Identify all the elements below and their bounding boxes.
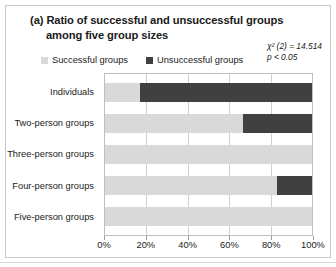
y-axis-label-four-person: Four-person groups [0, 176, 99, 195]
bar-segment-five-person-groups-successful-groups [105, 207, 312, 226]
y-axis-label-individuals: Individuals [0, 82, 99, 101]
y-axis-category-labels: Individuals Two-person groups Three-pers… [0, 73, 99, 236]
chart-figure: (a) Ratio of successful and unsuccessful… [0, 0, 336, 267]
bar-segment-four-person-groups-unsuccessful-groups [277, 176, 312, 195]
legend-item-successful: Successful groups [41, 55, 128, 65]
bar-segment-individuals-successful-groups [105, 83, 140, 102]
bar-segment-individuals-unsuccessful-groups [140, 83, 312, 102]
chart-title-line2: among five group sizes [30, 28, 310, 43]
legend-item-unsuccessful: Unsuccessful groups [146, 55, 243, 65]
bar-row-two-person-groups [105, 114, 312, 133]
x-tick-label-0: 0% [97, 240, 110, 250]
x-tick-label-40: 40% [178, 240, 197, 250]
chart-title-line1: (a) Ratio of successful and unsuccessful… [30, 14, 283, 26]
x-axis-tick-labels: 0%20%40%60%80%100% [104, 240, 313, 254]
p-value: p < 0.05 [267, 52, 322, 63]
bar-segment-two-person-groups-successful-groups [105, 114, 243, 133]
bar-series-container [105, 74, 312, 235]
statistics-annotation: χ² (2) = 14.514 p < 0.05 [267, 41, 322, 62]
bar-row-individuals [105, 83, 312, 102]
bar-segment-two-person-groups-unsuccessful-groups [243, 114, 312, 133]
legend-label-unsuccessful: Unsuccessful groups [157, 55, 243, 65]
legend-label-successful: Successful groups [52, 55, 128, 65]
bar-segment-three-person-groups-successful-groups [105, 145, 312, 164]
legend-swatch-icon-successful [41, 57, 48, 64]
bar-row-five-person-groups [105, 207, 312, 226]
chart-legend: Successful groups Unsuccessful groups [41, 55, 243, 65]
legend-swatch-icon-unsuccessful [146, 57, 153, 64]
figure-bottom-rule [0, 262, 336, 263]
y-axis-label-two-person: Two-person groups [0, 114, 99, 133]
bar-row-four-person-groups [105, 176, 312, 195]
y-axis-label-three-person: Three-person groups [0, 145, 99, 164]
x-tick-label-20: 20% [136, 240, 155, 250]
plot-area [104, 73, 313, 236]
chi-square-value: χ² (2) = 14.514 [267, 41, 322, 52]
chart-title: (a) Ratio of successful and unsuccessful… [30, 13, 310, 42]
bar-row-three-person-groups [105, 145, 312, 164]
x-tick-label-100: 100% [301, 240, 325, 250]
x-tick-label-80: 80% [262, 240, 281, 250]
bar-segment-four-person-groups-successful-groups [105, 176, 277, 195]
y-axis-label-five-person: Five-person groups [0, 208, 99, 227]
x-tick-label-60: 60% [220, 240, 239, 250]
